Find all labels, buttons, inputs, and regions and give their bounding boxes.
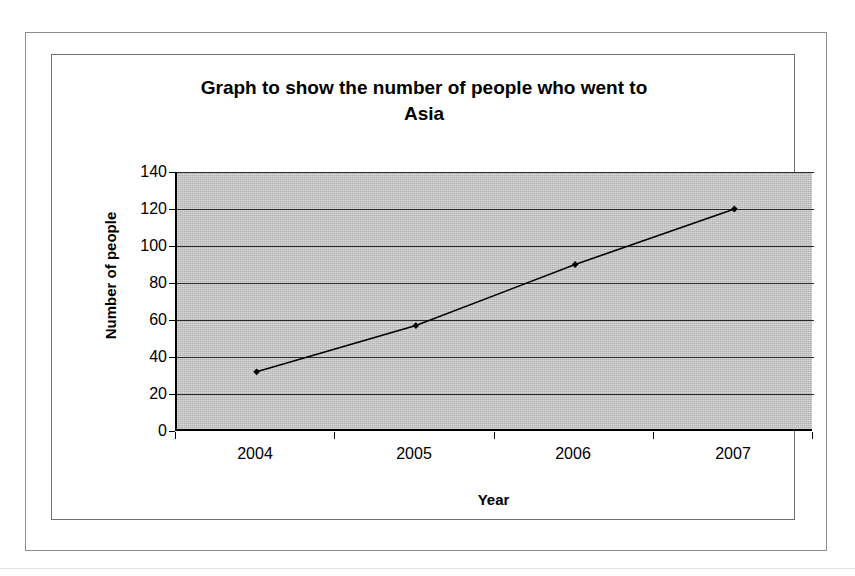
x-tick-mark-2 [494,432,495,439]
data-point-marker-2005 [412,322,419,329]
x-tick-mark-3 [653,432,654,439]
x-tick-mark-4 [812,432,813,439]
y-tick-label-120: 120 [57,200,167,218]
series-markers [253,206,738,376]
x-tick-label-2006: 2006 [555,445,591,463]
plot-area [175,172,812,431]
data-point-marker-2007 [731,206,738,213]
chart-container: Graph to show the number of people who w… [51,54,795,520]
x-tick-mark-1 [334,432,335,439]
data-point-marker-2006 [572,261,579,268]
data-series-line [177,172,814,431]
y-tick-label-40: 40 [57,348,167,366]
page-scan-artifact-line [0,568,855,569]
x-tick-label-2004: 2004 [237,445,273,463]
data-point-marker-2004 [253,368,260,375]
y-tick-label-140: 140 [57,163,167,181]
x-tick-label-2005: 2005 [396,445,432,463]
y-tick-label-0: 0 [57,422,167,440]
y-tick-label-100: 100 [57,237,167,255]
x-axis-title: Year [175,491,812,508]
x-tick-label-2007: 2007 [715,445,751,463]
y-tick-label-20: 20 [57,385,167,403]
series-polyline [257,209,735,372]
x-tick-mark-0 [175,432,176,439]
y-tick-label-80: 80 [57,274,167,292]
y-tick-label-60: 60 [57,311,167,329]
page-frame: Graph to show the number of people who w… [25,32,827,551]
